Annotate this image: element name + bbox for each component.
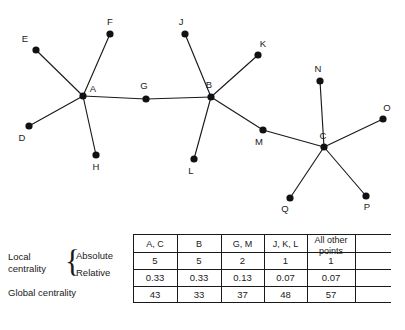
graph-edge-q-c bbox=[290, 147, 324, 198]
table-cell-r2-c0: 43 bbox=[133, 290, 177, 301]
graph-node-label-k: K bbox=[260, 38, 267, 49]
graph-node-n bbox=[316, 77, 323, 84]
table-header-text-2: G, M bbox=[233, 239, 253, 249]
table-hrule-3 bbox=[133, 286, 391, 287]
graph-edge-e-a bbox=[36, 50, 83, 96]
graph-edge-d-a bbox=[29, 96, 83, 126]
graph-node-label-d: D bbox=[19, 132, 26, 143]
graph-node-c bbox=[320, 143, 327, 150]
graph-edge-b-m bbox=[211, 97, 263, 130]
table-vrule-5 bbox=[355, 234, 356, 302]
table-cell-r2-c1: 33 bbox=[177, 290, 221, 301]
table-cell-r0-c4: 1 bbox=[307, 256, 355, 267]
graph-node-labels: EFADHGJBKLMNCOPQ bbox=[19, 16, 391, 214]
table-cell-r0-c0: 5 bbox=[133, 256, 177, 267]
relative-row-label: Relative bbox=[76, 267, 110, 278]
table-cell-r0-c3: 1 bbox=[264, 256, 307, 267]
graph-edge-k-b bbox=[211, 55, 258, 97]
graph-node-o bbox=[379, 115, 386, 122]
graph-edge-m-c bbox=[263, 130, 324, 147]
graph-node-h bbox=[92, 151, 99, 158]
table-header-cell-1: B bbox=[177, 239, 221, 250]
table-header-text-1: B bbox=[196, 239, 202, 249]
graph-node-label-q: Q bbox=[281, 203, 288, 214]
graph-node-p bbox=[362, 192, 369, 199]
graph-node-f bbox=[106, 30, 113, 37]
table-cell-r0-c2: 2 bbox=[221, 256, 264, 267]
table-header-text-3: J, K, L bbox=[273, 239, 299, 249]
graph-node-k bbox=[254, 51, 261, 58]
table-header-cell-4: All otherpoints bbox=[307, 235, 355, 256]
graph-edge-o-c bbox=[324, 119, 383, 147]
table-cell-r2-c4: 57 bbox=[307, 290, 355, 301]
centrality-table-panel: Local centrality { Absolute Relative Glo… bbox=[0, 218, 405, 330]
table-header-text-0: A, C bbox=[146, 239, 164, 249]
graph-edge-g-b bbox=[146, 97, 211, 99]
table-cell-r1-c2: 0.13 bbox=[221, 273, 264, 284]
table-header-cell-0: A, C bbox=[133, 239, 177, 250]
graph-edge-l-b bbox=[194, 97, 211, 159]
table-cell-r2-c3: 48 bbox=[264, 290, 307, 301]
graph-node-label-c: C bbox=[320, 130, 327, 141]
graph-node-q bbox=[286, 194, 293, 201]
graph-edge-f-a bbox=[83, 34, 110, 96]
table-header-text-4: All otherpoints bbox=[314, 235, 347, 256]
graph-node-label-n: N bbox=[315, 63, 322, 74]
graph-node-label-g: G bbox=[140, 80, 147, 91]
graph-node-label-b: B bbox=[206, 79, 212, 90]
global-centrality-row-label: Global centrality bbox=[8, 287, 76, 298]
table-cell-r1-c4: 0.07 bbox=[307, 273, 355, 284]
table-cell-r0-c1: 5 bbox=[177, 256, 221, 267]
table-row-labels: Local centrality { Absolute Relative Glo… bbox=[8, 234, 133, 324]
table-hrule-4 bbox=[133, 302, 391, 303]
graph-node-label-p: P bbox=[364, 201, 370, 212]
graph-node-d bbox=[25, 122, 32, 129]
graph-node-label-f: F bbox=[107, 16, 113, 27]
graph-edge-p-c bbox=[324, 147, 366, 196]
graph-node-m bbox=[259, 126, 266, 133]
network-graph-svg: EFADHGJBKLMNCOPQ bbox=[0, 0, 405, 218]
graph-node-b bbox=[207, 93, 214, 100]
table-header-cell-3: J, K, L bbox=[264, 239, 307, 250]
absolute-row-label: Absolute bbox=[76, 250, 113, 261]
table-cell-r1-c3: 0.07 bbox=[264, 273, 307, 284]
local-centrality-label-line1: Local bbox=[8, 251, 31, 262]
table-header-cell-2: G, M bbox=[221, 239, 264, 250]
table-cell-r1-c0: 0.33 bbox=[133, 273, 177, 284]
graph-node-j bbox=[181, 30, 188, 37]
graph-node-label-j: J bbox=[179, 16, 184, 27]
graph-node-a bbox=[79, 92, 86, 99]
graph-node-label-a: A bbox=[90, 83, 97, 94]
table-cell-r1-c1: 0.33 bbox=[177, 273, 221, 284]
graph-node-label-m: M bbox=[255, 136, 263, 147]
local-centrality-label: Local centrality bbox=[8, 251, 64, 274]
graph-node-label-e: E bbox=[22, 33, 28, 44]
graph-node-label-h: H bbox=[93, 161, 100, 172]
network-graph-panel: EFADHGJBKLMNCOPQ bbox=[0, 0, 405, 218]
centrality-table-grid: A, CBG, MJ, K, LAll otherpoints552110.33… bbox=[133, 234, 391, 318]
graph-edge-h-a bbox=[83, 96, 96, 155]
graph-node-label-l: L bbox=[188, 165, 193, 176]
graph-node-label-o: O bbox=[383, 102, 390, 113]
local-centrality-label-line2: centrality bbox=[8, 263, 46, 274]
graph-edge-a-g bbox=[83, 96, 146, 99]
table-hrule-2 bbox=[133, 269, 391, 270]
table-cell-r2-c2: 37 bbox=[221, 290, 264, 301]
graph-node-l bbox=[190, 155, 197, 162]
graph-edges bbox=[29, 34, 383, 198]
graph-node-e bbox=[32, 46, 39, 53]
graph-node-g bbox=[142, 95, 149, 102]
